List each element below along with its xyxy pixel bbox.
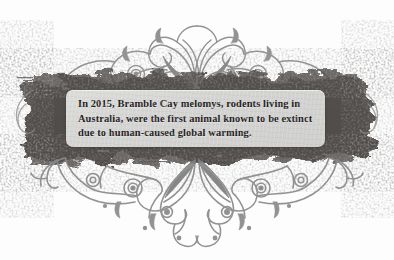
quote-line-2: Australia, were the first animal known t… (78, 112, 315, 127)
quote-panel: In 2015, Bramble Cay melomys, rodents li… (66, 90, 325, 147)
quote-graphic: In 2015, Bramble Cay melomys, rodents li… (0, 0, 394, 260)
quote-line-3: due to human-caused global warming. (78, 126, 315, 141)
quote-line-1: In 2015, Bramble Cay melomys, rodents li… (78, 97, 315, 112)
